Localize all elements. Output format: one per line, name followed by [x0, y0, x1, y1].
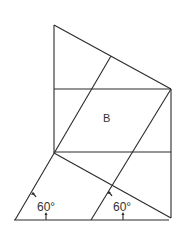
angle-label-left: 60°	[37, 200, 55, 214]
region-label-b: B	[103, 112, 110, 124]
angle-label-right: 60°	[113, 200, 131, 214]
diagram-svg: B 60° 60°	[0, 0, 182, 227]
geometry-diagram: B 60° 60°	[0, 0, 182, 227]
left-inclined-line	[15, 56, 111, 220]
top-slant-edge	[54, 25, 171, 89]
